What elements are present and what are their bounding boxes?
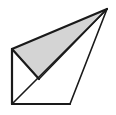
figure-canvas [0, 0, 116, 115]
pyramid-diagram [0, 0, 116, 115]
